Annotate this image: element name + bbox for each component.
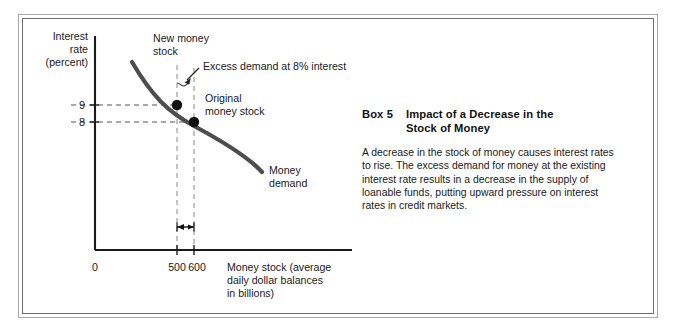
chart-svg: Interest rate (percent) 9 8 0 500 600 Mo… bbox=[22, 18, 352, 314]
excess-demand-arrow-line bbox=[187, 68, 199, 80]
callout-excess-demand: Excess demand at 8% interest bbox=[203, 60, 346, 72]
x-tick-label-500: 500 bbox=[168, 261, 186, 273]
equilibrium-dot-original bbox=[189, 117, 199, 127]
box-5-heading: Box 5 Impact of a Decrease in the Stock … bbox=[362, 108, 614, 135]
equilibrium-dot-new bbox=[172, 100, 182, 110]
callout-money-demand-line1: Money bbox=[269, 164, 301, 176]
x-axis-label-line2: daily dollar balances bbox=[227, 274, 323, 286]
figure-root: Interest rate (percent) 9 8 0 500 600 Mo… bbox=[0, 0, 673, 335]
x-tick-label-600: 600 bbox=[188, 261, 206, 273]
box-body-text: A decrease in the stock of money causes … bbox=[362, 146, 614, 212]
money-demand-chart: Interest rate (percent) 9 8 0 500 600 Mo… bbox=[22, 18, 352, 314]
x-axis-label-line3: in billions) bbox=[227, 287, 274, 299]
callout-money-demand-line2: demand bbox=[269, 177, 307, 189]
box-5-panel: Box 5 Impact of a Decrease in the Stock … bbox=[362, 108, 614, 213]
y-axis-label-line3: (percent) bbox=[46, 56, 88, 68]
gap-arrow-head-left bbox=[177, 224, 184, 230]
y-axis-label-line2: rate bbox=[70, 43, 88, 55]
x-axis-label-line1: Money stock (average bbox=[227, 261, 331, 273]
box-title-line1: Impact of a Decrease in the bbox=[406, 108, 554, 120]
callout-new-money-stock-line2: stock bbox=[153, 45, 178, 57]
y-axis-label-line1: Interest bbox=[53, 30, 88, 42]
y-tick-label-8: 8 bbox=[79, 116, 85, 128]
box-title-text: Impact of a Decrease in the Stock of Mon… bbox=[406, 108, 614, 135]
money-demand-curve bbox=[132, 62, 262, 172]
callout-original-money-stock-line2: money stock bbox=[205, 105, 265, 117]
box-title-line2: Stock of Money bbox=[406, 122, 490, 134]
gap-arrow-head-right bbox=[188, 225, 194, 230]
x-tick-label-0: 0 bbox=[92, 261, 98, 273]
box-number-label: Box 5 bbox=[362, 108, 393, 122]
callout-new-money-stock-line1: New money bbox=[153, 32, 210, 44]
callout-original-money-stock-line1: Original bbox=[205, 92, 242, 104]
y-tick-label-9: 9 bbox=[79, 99, 85, 111]
